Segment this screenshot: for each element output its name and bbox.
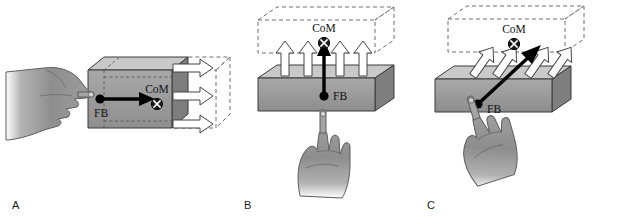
force-label-a: FB — [94, 107, 108, 119]
com-marker-b: CoM — [312, 22, 336, 49]
circle-x-icon — [318, 37, 329, 48]
com-label-c: CoM — [502, 23, 526, 35]
hand-b — [298, 110, 350, 198]
panel-c: FB CoM C — [415, 0, 641, 217]
force-label-b: FB — [333, 90, 347, 102]
box-b-top — [258, 65, 394, 78]
panel-letter-a: A — [12, 199, 20, 211]
com-marker-c: CoM — [502, 23, 526, 50]
panel-c-illustration: FB CoM — [415, 0, 641, 217]
circle-x-icon — [508, 38, 519, 49]
panel-a: FB CoM A — [0, 0, 230, 217]
figure-three-panel-force-diagram: FB CoM A — [0, 0, 641, 217]
force-application-point — [95, 94, 104, 103]
com-label-a: CoM — [145, 83, 169, 95]
motion-arrows-a — [173, 59, 213, 133]
force-label-c: FB — [487, 103, 501, 115]
panel-letter-b: B — [244, 199, 252, 211]
force-application-point — [319, 91, 328, 100]
panel-b: FB CoM B — [230, 0, 415, 217]
circle-x-icon — [151, 98, 162, 109]
hand-a — [6, 67, 94, 140]
com-label-b: CoM — [312, 22, 336, 34]
box-b-front — [258, 78, 375, 111]
panel-b-illustration: FB CoM — [230, 0, 415, 217]
box-b — [258, 65, 394, 111]
panel-a-illustration: FB CoM — [0, 0, 230, 217]
panel-letter-c: C — [427, 199, 435, 211]
